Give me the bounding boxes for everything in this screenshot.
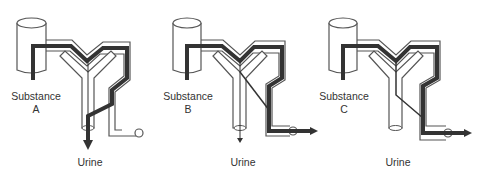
nephron-diagram-b — [160, 0, 320, 175]
substance-letter: A — [6, 103, 66, 116]
urine-label-b: Urine — [223, 156, 263, 169]
substance-label-c: Substance C — [314, 90, 374, 116]
arrow-right-icon — [310, 127, 318, 135]
substance-text: Substance — [314, 90, 374, 103]
panel-substance-c: Substance C Urine — [318, 0, 478, 175]
substance-letter: C — [314, 103, 374, 116]
nephron-diagram-c — [318, 0, 478, 175]
substance-label-b: Substance B — [158, 90, 218, 116]
nephron-diagram-a — [0, 0, 160, 175]
substance-letter: B — [158, 103, 218, 116]
arrow-down-icon — [237, 138, 243, 143]
substance-text: Substance — [158, 90, 218, 103]
panel-substance-a: Substance A Urine — [0, 0, 160, 175]
panel-substance-b: Substance B Urine — [160, 0, 320, 175]
arrow-right-icon — [464, 129, 472, 137]
urine-label-c: Urine — [378, 156, 418, 169]
urine-label-a: Urine — [70, 156, 110, 169]
substance-label-a: Substance A — [6, 90, 66, 116]
arrow-down-icon — [83, 140, 93, 150]
substance-text: Substance — [6, 90, 66, 103]
